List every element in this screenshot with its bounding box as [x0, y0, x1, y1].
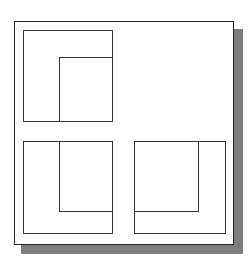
bottom-right-view-inner-horizontal: [134, 211, 199, 212]
bottom-left-view-inner-vertical: [59, 141, 60, 212]
top-left-view-inner-vertical: [59, 57, 60, 121]
bottom-right-view-inner-vertical: [198, 141, 199, 212]
bottom-left-view-inner-horizontal: [59, 211, 112, 212]
frame-shadow-bottom: [21, 245, 243, 254]
top-left-view: [23, 30, 113, 122]
top-left-view-inner-horizontal: [59, 57, 112, 58]
bottom-right-view: [134, 141, 226, 234]
frame-shadow-right: [234, 29, 243, 254]
bottom-left-view: [23, 141, 113, 234]
